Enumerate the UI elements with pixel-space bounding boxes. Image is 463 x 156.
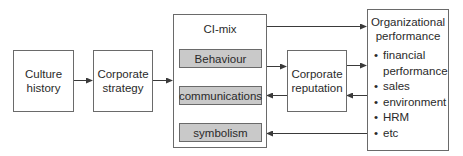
behaviour-box: Behaviour — [179, 49, 262, 68]
list-item: environment — [374, 95, 446, 111]
list-item: HRM — [374, 110, 446, 126]
ci-mix-title: CI-mix — [174, 23, 266, 35]
list-item: etc — [374, 126, 446, 142]
communications-box: communications — [179, 86, 262, 105]
culture-history-box: Culture history — [13, 50, 74, 112]
organizational-performance-box: Organizational performance financial per… — [367, 9, 449, 151]
culture-history-label: Culture history — [19, 67, 69, 95]
organizational-performance-title: Organizational performance — [368, 15, 448, 43]
performance-list: financial performance sales environment … — [374, 48, 446, 141]
corporate-reputation-label: Corporate reputation — [288, 67, 346, 95]
corporate-strategy-label: Corporate strategy — [95, 67, 151, 95]
corporate-reputation-box: Corporate reputation — [287, 50, 347, 112]
ci-mix-box: CI-mix Behaviour communications symbolis… — [173, 14, 267, 148]
symbolism-box: symbolism — [179, 123, 262, 142]
list-item: sales — [374, 79, 446, 95]
list-item: financial performance — [374, 48, 445, 79]
corporate-strategy-box: Corporate strategy — [93, 50, 153, 112]
